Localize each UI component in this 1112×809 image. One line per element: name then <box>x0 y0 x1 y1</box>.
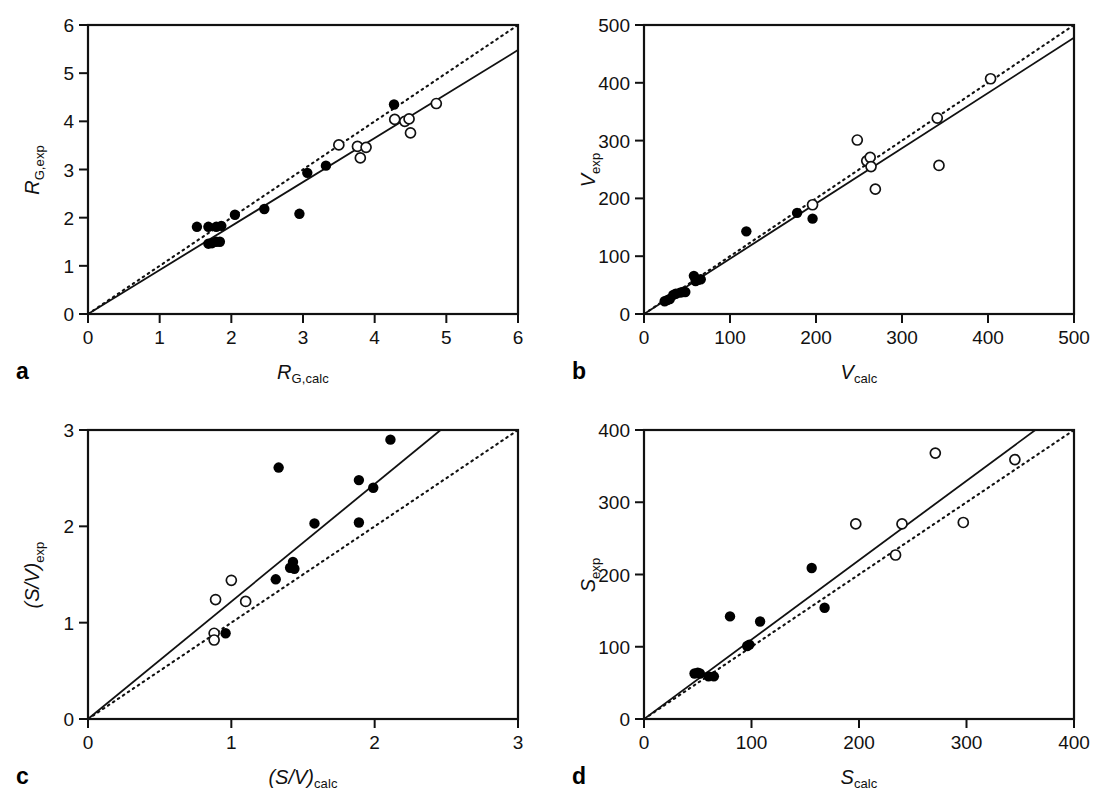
y-tick-label: 2 <box>63 517 74 536</box>
data-point-open <box>1010 455 1020 465</box>
data-point-open <box>930 448 940 458</box>
y-tick-label: 100 <box>598 637 630 656</box>
panel-a: RG,exp RG,calc a 01234560123456 <box>0 0 556 404</box>
y-tick-label: 200 <box>598 189 630 208</box>
x-tick-label: 100 <box>714 328 746 347</box>
panel-label-a: a <box>16 360 29 383</box>
data-point-filled <box>807 213 817 223</box>
data-point-open <box>808 200 818 210</box>
data-point-open <box>404 114 414 124</box>
data-point-open <box>334 140 344 150</box>
x-tick-label: 0 <box>639 328 650 347</box>
data-point-open <box>866 162 876 172</box>
data-point-open <box>852 135 862 145</box>
panel-d: Sexp Scalc d 01002003004000100200300400 <box>556 405 1112 809</box>
regression-line <box>644 38 1074 314</box>
panel-c: (S/V)exp (S/V)calc c 01230123 <box>0 405 556 809</box>
identity-line <box>88 25 518 314</box>
data-point-filled <box>294 209 304 219</box>
y-tick-label: 1 <box>63 613 74 632</box>
y-tick-label: 4 <box>63 112 74 131</box>
y-tick-label: 5 <box>63 64 74 83</box>
panel-c-y-axis-label: (S/V)exp <box>22 541 45 608</box>
y-tick-label: 400 <box>598 421 630 440</box>
panel-a-x-axis-label: RG,calc <box>277 362 329 385</box>
y-tick-label: 3 <box>63 160 74 179</box>
x-tick-label: 5 <box>441 328 452 347</box>
data-point-open <box>390 114 400 124</box>
x-tick-label: 400 <box>972 328 1004 347</box>
y-tick-label: 2 <box>63 208 74 227</box>
x-tick-label: 1 <box>226 733 237 752</box>
data-point-filled <box>385 434 395 444</box>
data-point-open <box>241 596 251 606</box>
x-tick-label: 4 <box>369 328 380 347</box>
data-point-open <box>431 99 441 109</box>
panel-a-y-axis-label: RG,exp <box>22 145 45 195</box>
data-point-open <box>355 153 365 163</box>
x-tick-label: 300 <box>886 328 918 347</box>
x-tick-label: 0 <box>83 733 94 752</box>
data-point-filled <box>215 237 225 247</box>
x-tick-label: 0 <box>83 328 94 347</box>
data-point-filled <box>354 517 364 527</box>
data-point-open <box>934 160 944 170</box>
data-point-filled <box>696 274 706 284</box>
data-point-open <box>891 550 901 560</box>
data-point-open <box>851 519 861 529</box>
x-tick-label: 400 <box>1058 733 1090 752</box>
panel-b-y-axis-label: Vexp <box>578 152 601 187</box>
y-tick-label: 6 <box>63 16 74 35</box>
data-point-filled <box>755 616 765 626</box>
data-point-open <box>361 142 371 152</box>
data-point-open <box>870 184 880 194</box>
panel-label-b: b <box>572 360 586 383</box>
data-point-open <box>226 575 236 585</box>
data-point-filled <box>220 628 230 638</box>
panel-c-x-axis-label: (S/V)calc <box>268 767 337 790</box>
panel-d-x-axis-label: Scalc <box>841 767 878 790</box>
y-tick-label: 100 <box>598 247 630 266</box>
data-point-filled <box>192 222 202 232</box>
x-tick-label: 200 <box>843 733 875 752</box>
data-point-filled <box>680 287 690 297</box>
panel-b: Vexp Vcalc b 010020030040050001002003004… <box>556 0 1112 404</box>
data-point-filled <box>819 603 829 613</box>
x-tick-label: 3 <box>298 328 309 347</box>
data-point-filled <box>273 462 283 472</box>
data-point-filled <box>792 208 802 218</box>
data-point-open <box>211 595 221 605</box>
data-point-filled <box>368 483 378 493</box>
y-tick-label: 200 <box>598 565 630 584</box>
panel-label-c: c <box>16 765 29 788</box>
x-tick-label: 500 <box>1058 328 1090 347</box>
y-tick-label: 0 <box>63 305 74 324</box>
figure-root: RG,exp RG,calc a 01234560123456 Vexp Vca… <box>0 0 1112 809</box>
regression-line <box>88 50 518 314</box>
y-tick-label: 1 <box>63 256 74 275</box>
x-tick-label: 2 <box>226 328 237 347</box>
x-tick-label: 3 <box>513 733 524 752</box>
y-tick-label: 0 <box>63 710 74 729</box>
y-tick-label: 400 <box>598 73 630 92</box>
x-tick-label: 1 <box>154 328 165 347</box>
data-point-filled <box>309 518 319 528</box>
data-point-open <box>958 517 968 527</box>
data-point-filled <box>807 563 817 573</box>
x-tick-label: 6 <box>513 328 524 347</box>
data-point-filled <box>271 574 281 584</box>
data-point-filled <box>230 210 240 220</box>
data-point-open <box>897 519 907 529</box>
y-tick-label: 0 <box>619 710 630 729</box>
data-point-filled <box>259 204 269 214</box>
x-tick-label: 200 <box>800 328 832 347</box>
data-point-open <box>406 128 416 138</box>
data-point-filled <box>741 226 751 236</box>
x-tick-label: 100 <box>736 733 768 752</box>
data-point-open <box>932 113 942 123</box>
data-point-filled <box>389 99 399 109</box>
x-tick-label: 300 <box>951 733 983 752</box>
data-point-filled <box>354 475 364 485</box>
data-point-filled <box>302 168 312 178</box>
y-tick-label: 300 <box>598 131 630 150</box>
